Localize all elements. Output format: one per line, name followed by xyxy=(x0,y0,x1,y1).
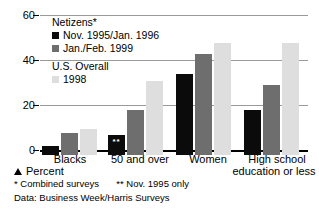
bar-highschool-1998 xyxy=(282,43,299,156)
bar-women-nov1995 xyxy=(176,74,193,155)
legend-label-1998: 1998 xyxy=(63,73,86,86)
legend-label-jan1999: Jan./Feb. 1999 xyxy=(63,42,133,55)
x-axis-label-high-school-line2: education or less xyxy=(230,165,318,177)
x-axis-label-high-school-line1: High school xyxy=(238,153,316,165)
bar-women-jan1999 xyxy=(195,54,212,155)
bar-women-1998 xyxy=(214,43,231,156)
bar-50over-1998 xyxy=(146,81,163,155)
footnote-row: * Combined surveys ** Nov. 1995 only xyxy=(14,178,189,191)
y-axis-tick-mark-0 xyxy=(33,150,39,151)
x-axis-label-women: Women xyxy=(178,153,238,165)
source-note: Data: Business Week/Harris Surveys xyxy=(14,191,189,205)
legend: Netizens* Nov. 1995/Jan. 1996 Jan./Feb. … xyxy=(52,16,159,86)
bar-group-high-school xyxy=(244,10,300,155)
bar-50over-jan1999 xyxy=(127,110,144,155)
y-axis-tick-mark-60 xyxy=(33,15,39,16)
legend-swatch-icon-nov1995 xyxy=(52,32,59,39)
y-axis-tick-mark-40 xyxy=(33,60,39,61)
triangle-icon xyxy=(14,168,22,175)
footnote-nov-1995-only: ** Nov. 1995 only xyxy=(116,178,189,189)
legend-label-nov1995: Nov. 1995/Jan. 1996 xyxy=(63,29,159,42)
bar-chart: 60 40 20 0 ** xyxy=(0,0,319,214)
x-axis-label-50-and-over: 50 and over xyxy=(104,153,176,165)
x-axis-label-blacks: Blacks xyxy=(42,153,98,165)
y-axis-tick-label-0: 0 xyxy=(11,145,35,156)
bar-blacks-1998 xyxy=(80,129,97,155)
legend-item-nov1995: Nov. 1995/Jan. 1996 xyxy=(52,29,159,42)
bar-highschool-jan1999 xyxy=(263,85,280,155)
bar-50over-nov1995: ** xyxy=(108,135,125,155)
bar-highschool-nov1995 xyxy=(244,110,261,155)
legend-swatch-icon-jan1999 xyxy=(52,45,59,52)
bar-blacks-jan1999 xyxy=(61,133,78,156)
footnote-combined-surveys: * Combined surveys xyxy=(14,178,99,189)
axis-unit-label: Percent xyxy=(26,165,64,178)
y-axis-tick-label-40: 40 xyxy=(11,55,35,66)
axis-unit-note: Percent xyxy=(14,165,189,178)
y-axis-tick-label-60: 60 xyxy=(11,10,35,21)
legend-group-title-netizens: Netizens* xyxy=(52,16,159,29)
legend-swatch-icon-1998 xyxy=(52,76,59,83)
bar-footnote-marker: ** xyxy=(108,138,125,146)
bar-group-women xyxy=(176,10,232,155)
legend-item-jan1999: Jan./Feb. 1999 xyxy=(52,42,159,55)
legend-item-1998: 1998 xyxy=(52,73,159,86)
y-axis-tick-label-20: 20 xyxy=(11,100,35,111)
legend-group-title-us-overall: U.S. Overall xyxy=(52,60,159,73)
footnotes: Percent * Combined surveys ** Nov. 1995 … xyxy=(14,165,189,204)
y-axis-tick-mark-20 xyxy=(33,105,39,106)
